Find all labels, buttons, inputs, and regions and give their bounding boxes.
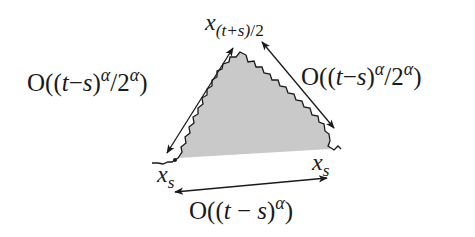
apex-label: x(t+s)/2: [205, 10, 264, 39]
bottom-prefix: O((: [189, 197, 224, 224]
left-end: ): [139, 69, 147, 96]
bottom-arrow: [175, 178, 327, 192]
bottom-s: s: [257, 197, 267, 224]
left-s: s: [83, 69, 93, 96]
apex-var: x: [205, 9, 216, 35]
left-close: ): [93, 69, 101, 96]
xs-right-sub: s: [323, 161, 330, 180]
base-left-label: xs: [157, 162, 174, 191]
base-right-label: xs: [312, 150, 329, 179]
bottom-minus: −: [231, 197, 251, 224]
left-alpha-1: α: [101, 65, 110, 85]
right-end: ): [413, 63, 421, 90]
right-minus: −: [343, 63, 357, 90]
left-prefix: O((: [27, 69, 62, 96]
apex-subscript-rest: /2: [250, 21, 263, 40]
right-s: s: [357, 63, 367, 90]
right-mid: /2: [384, 63, 403, 90]
apex-subscript: (t+s)/2: [216, 21, 264, 40]
left-alpha-2: α: [130, 65, 139, 85]
right-close: ): [367, 63, 375, 90]
left-mid: /2: [110, 69, 129, 96]
right-alpha-1: α: [375, 59, 384, 79]
xs-right-var: x: [312, 149, 323, 175]
left-minus: −: [69, 69, 83, 96]
xs-left-sub: s: [168, 173, 175, 192]
right-t: t: [336, 63, 343, 90]
right-side-label: O((t−s)α/2α): [301, 60, 422, 89]
bottom-label: O((t − s)α): [189, 194, 293, 223]
left-t: t: [62, 69, 69, 96]
right-prefix: O((: [301, 63, 336, 90]
right-alpha-2: α: [404, 59, 413, 79]
xs-left-var: x: [157, 161, 168, 187]
left-side-label: O((t−s)α/2α): [27, 66, 148, 95]
apex-subscript-text: (t+s): [216, 21, 251, 40]
bottom-t: t: [224, 197, 231, 224]
bottom-end: ): [285, 197, 293, 224]
bottom-alpha: α: [275, 193, 284, 213]
